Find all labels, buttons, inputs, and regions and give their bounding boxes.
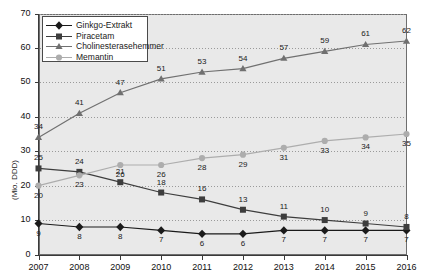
data-point-label: 41: [68, 98, 90, 107]
data-point-label: 33: [314, 146, 336, 155]
data-point-marker: [280, 226, 288, 234]
data-point-label: 51: [150, 64, 172, 73]
data-point-marker: [75, 223, 83, 231]
data-point-label: 6: [191, 239, 213, 248]
data-point-marker: [322, 217, 328, 223]
legend-square-marker-icon: [46, 31, 72, 42]
data-point-label: 47: [109, 78, 131, 87]
data-point-label: 16: [191, 184, 213, 193]
data-point-label: 9: [355, 209, 377, 218]
data-point-marker: [117, 179, 123, 185]
series-line: [39, 134, 407, 186]
data-point-label: 35: [396, 139, 418, 148]
data-point-label: 28: [191, 163, 213, 172]
data-point-marker: [240, 152, 246, 158]
legend-item-memantin[interactable]: Memantin: [46, 52, 113, 63]
legend-item-label: Cholinesterasehemmer: [76, 41, 164, 52]
data-point-marker: [35, 219, 43, 227]
data-point-label: 8: [109, 232, 131, 241]
data-point-marker: [199, 196, 205, 202]
data-point-marker: [363, 134, 369, 140]
data-point-marker: [199, 155, 205, 161]
data-point-label: 59: [314, 36, 336, 45]
legend-item-label: Memantin: [76, 52, 113, 63]
data-point-marker: [35, 183, 41, 189]
legend-marker-glyph: [46, 20, 72, 31]
data-point-label: 7: [314, 235, 336, 244]
legend-item-label: Ginkgo-Extrakt: [76, 20, 132, 31]
data-point-marker: [116, 223, 124, 231]
legend-marker-glyph: [46, 41, 72, 52]
data-point-marker: [321, 226, 329, 234]
data-point-label: 26: [150, 170, 172, 179]
data-point-label: 53: [191, 57, 213, 66]
data-point-marker: [35, 134, 42, 140]
data-point-label: 34: [28, 122, 50, 131]
data-point-label: 34: [355, 142, 377, 151]
series-line: [39, 168, 407, 227]
data-point-label: 7: [273, 235, 295, 244]
data-point-marker: [322, 138, 328, 144]
legend-item-cholinesterasehemmer[interactable]: Cholinesterasehemmer: [46, 41, 164, 52]
data-point-label: 6: [232, 239, 254, 248]
data-point-marker: [404, 224, 410, 230]
data-point-marker: [239, 230, 247, 238]
data-point-label: 8: [396, 212, 418, 221]
data-point-marker: [281, 214, 287, 220]
data-point-label: 54: [232, 54, 254, 63]
data-point-marker: [76, 110, 83, 116]
data-point-marker: [363, 221, 369, 227]
data-point-marker: [198, 230, 206, 238]
data-point-label: 29: [232, 160, 254, 169]
data-point-marker: [403, 131, 409, 137]
data-point-marker: [362, 226, 370, 234]
data-point-marker: [281, 145, 287, 151]
legend-marker-shape: [55, 21, 63, 29]
data-point-label: 8: [68, 232, 90, 241]
data-point-label: 26: [109, 170, 131, 179]
data-point-label: 11: [273, 202, 295, 211]
data-point-label: 20: [28, 191, 50, 200]
legend-marker-glyph: [46, 52, 72, 63]
legend-marker-glyph: [46, 31, 72, 42]
data-point-label: 7: [150, 235, 172, 244]
data-point-marker: [240, 207, 246, 213]
legend-diamond-marker-icon: [46, 20, 72, 31]
data-point-label: 61: [355, 29, 377, 38]
data-point-label: 25: [28, 153, 50, 162]
data-point-marker: [157, 226, 165, 234]
legend-triangle-marker-icon: [46, 41, 72, 52]
data-point-label: 24: [68, 157, 90, 166]
data-point-marker: [158, 190, 164, 196]
data-point-label: 9: [28, 229, 50, 238]
legend-item-label: Piracetam: [76, 31, 114, 42]
data-point-label: 10: [314, 205, 336, 214]
data-point-label: 57: [273, 43, 295, 52]
legend-item-piracetam[interactable]: Piracetam: [46, 31, 114, 42]
data-point-label: 23: [68, 180, 90, 189]
series-line: [39, 224, 407, 234]
data-point-marker: [158, 162, 164, 168]
data-point-label: 13: [232, 195, 254, 204]
legend-marker-shape: [55, 43, 62, 49]
data-point-label: 7: [355, 235, 377, 244]
data-point-marker: [76, 172, 82, 178]
legend-item-ginkgo-extrakt[interactable]: Ginkgo-Extrakt: [46, 20, 132, 31]
legend-circle-marker-icon: [46, 52, 72, 63]
data-point-marker: [36, 165, 42, 171]
legend-marker-shape: [56, 54, 62, 60]
legend-marker-shape: [56, 33, 62, 39]
data-point-label: 62: [396, 26, 418, 35]
data-point-marker: [403, 37, 410, 43]
data-point-label: 31: [273, 153, 295, 162]
data-point-label: 7: [396, 235, 418, 244]
